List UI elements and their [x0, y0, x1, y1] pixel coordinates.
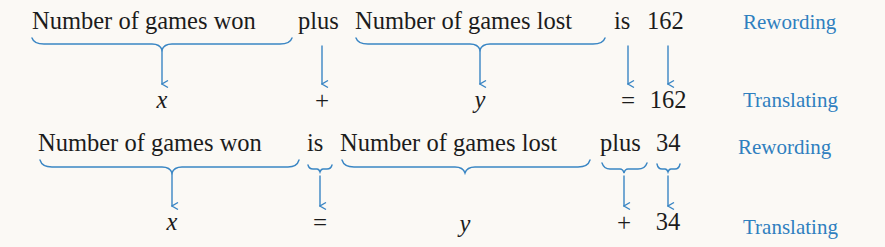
- phrase-number: 34: [656, 131, 681, 156]
- phrase-games-lost: Number of games lost: [355, 9, 572, 34]
- term-equals: =: [621, 88, 635, 113]
- rewording-label: Rewording: [738, 137, 831, 158]
- phrase-games-lost: Number of games lost: [340, 131, 557, 156]
- brace-icon: [342, 160, 590, 173]
- translating-label: Translating: [743, 217, 838, 238]
- translation-diagram: Number of games won plus Number of games…: [0, 0, 885, 247]
- brace-icon: [40, 160, 299, 173]
- phrase-games-won: Number of games won: [38, 131, 262, 156]
- term-number: 162: [650, 88, 687, 113]
- term-number: 34: [656, 210, 681, 235]
- phrase-is: is: [614, 9, 630, 34]
- phrase-is: is: [307, 131, 323, 156]
- brace-icon: [602, 163, 647, 173]
- braces-and-arrows: [0, 0, 885, 247]
- term-equals: =: [313, 210, 327, 235]
- term-y: y: [475, 88, 486, 113]
- phrase-games-won: Number of games won: [32, 9, 256, 34]
- phrase-number: 162: [647, 9, 684, 34]
- brace-icon: [32, 38, 292, 50]
- phrase-plus: plus: [298, 9, 339, 34]
- phrase-plus: plus: [600, 131, 641, 156]
- brace-icon: [356, 38, 605, 50]
- term-plus: +: [617, 210, 631, 235]
- rewording-label: Rewording: [743, 12, 836, 33]
- term-x: x: [167, 210, 178, 235]
- term-y: y: [460, 212, 471, 237]
- translating-label: Translating: [743, 90, 838, 111]
- term-plus: +: [315, 88, 329, 113]
- brace-icon: [308, 165, 332, 172]
- term-x: x: [157, 88, 168, 113]
- brace-icon: [657, 164, 680, 172]
